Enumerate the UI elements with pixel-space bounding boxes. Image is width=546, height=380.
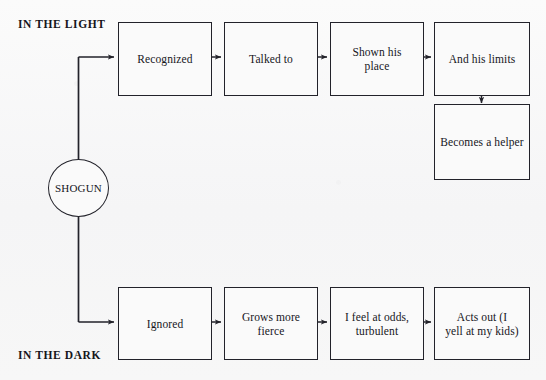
node-acts-out-label: Acts out (I yell at my kids) bbox=[445, 310, 518, 338]
node-ignored-label: Ignored bbox=[147, 317, 183, 331]
band-label-in-the-light: IN THE LIGHT bbox=[18, 18, 106, 30]
node-and-his-limits-label: And his limits bbox=[449, 52, 516, 66]
node-and-his-limits[interactable]: And his limits bbox=[434, 22, 530, 96]
node-talked-to[interactable]: Talked to bbox=[224, 22, 318, 96]
band-label-in-the-dark: IN THE DARK bbox=[18, 349, 101, 361]
node-recognized-label: Recognized bbox=[137, 52, 192, 66]
node-talked-to-label: Talked to bbox=[249, 52, 293, 66]
node-i-feel-at-odds[interactable]: I feel at odds, turbulent bbox=[330, 287, 424, 360]
node-i-feel-at-odds-label: I feel at odds, turbulent bbox=[345, 310, 409, 338]
flowchart-diagram: IN THE LIGHT IN THE DARK SHOGUN Recogniz… bbox=[0, 0, 546, 380]
node-acts-out[interactable]: Acts out (I yell at my kids) bbox=[434, 287, 530, 360]
node-grows-more-fierce[interactable]: Grows more fierce bbox=[224, 287, 318, 360]
node-grows-more-fierce-label: Grows more fierce bbox=[242, 310, 300, 338]
node-ignored[interactable]: Ignored bbox=[118, 287, 212, 360]
node-becomes-a-helper-label: Becomes a helper bbox=[440, 135, 523, 149]
node-becomes-a-helper[interactable]: Becomes a helper bbox=[434, 104, 530, 180]
hub-node-label: SHOGUN bbox=[55, 182, 102, 194]
node-recognized[interactable]: Recognized bbox=[118, 22, 212, 96]
node-shown-his-place-label: Shown his place bbox=[352, 45, 401, 73]
node-shown-his-place[interactable]: Shown his place bbox=[330, 22, 424, 96]
hub-node-shogun[interactable]: SHOGUN bbox=[48, 159, 109, 217]
